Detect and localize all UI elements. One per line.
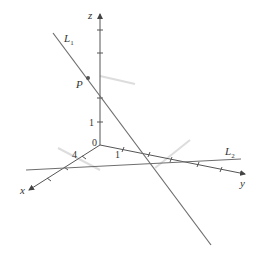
y-axis-label: y (240, 178, 245, 189)
l1-subscript: 1 (70, 39, 74, 47)
diagram-canvas: z L1 P 1 0 4 1 x L2 y (0, 0, 257, 261)
diagram-svg (0, 0, 257, 261)
z-axis-label: z (88, 10, 92, 21)
x-axis-label: x (20, 185, 25, 196)
point-p-label: P (76, 79, 83, 90)
z-tick-label: 1 (89, 118, 94, 128)
x-tick-label: 4 (72, 150, 77, 160)
point-p (86, 76, 90, 80)
l2-subscript: 2 (231, 152, 235, 160)
l2-label: L2 (225, 146, 235, 160)
y-tick-label: 1 (115, 150, 120, 160)
l1-label: L1 (64, 33, 74, 47)
projection-shadows (58, 76, 190, 170)
line-l2 (26, 159, 241, 170)
line-l1 (53, 33, 211, 245)
origin-label: 0 (92, 138, 97, 148)
